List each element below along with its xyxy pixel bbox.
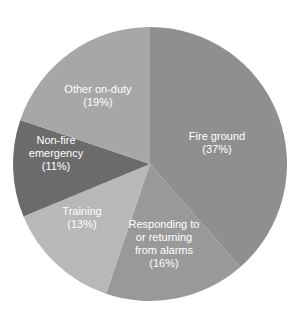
pie-chart: Fire ground(37%)Responding toor returnin… xyxy=(0,0,296,317)
slice-label: Training(13%) xyxy=(62,205,101,230)
